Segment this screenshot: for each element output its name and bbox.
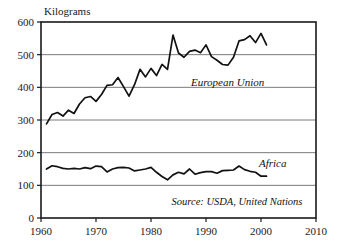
x-tick-label-2000: 2000 xyxy=(250,225,273,237)
x-axis-labels: 196019701980199020002010 xyxy=(30,225,328,237)
x-tick-label-1960: 1960 xyxy=(30,225,53,237)
y-tick-label-200: 200 xyxy=(18,147,35,159)
series-line-africa xyxy=(47,166,267,180)
x-tick-label-2010: 2010 xyxy=(305,225,328,237)
y-tick-label-400: 400 xyxy=(18,81,35,93)
x-tick-label-1980: 1980 xyxy=(140,225,163,237)
y-tick-label-600: 600 xyxy=(18,16,35,28)
chart-container: 0100200300400500600 19601970198019902000… xyxy=(0,0,343,252)
x-tick-label-1990: 1990 xyxy=(195,225,218,237)
y-axis-labels: 0100200300400500600 xyxy=(18,16,35,224)
y-tick-label-300: 300 xyxy=(18,114,35,126)
source-note: Source: USDA, United Nations xyxy=(172,196,303,207)
series-lines xyxy=(47,33,267,179)
y-tick-label-500: 500 xyxy=(18,49,35,61)
y-tick-label-100: 100 xyxy=(18,179,35,191)
y-axis-title: Kilograms xyxy=(44,5,90,17)
y-tick-label-0: 0 xyxy=(29,212,35,224)
series-label-africa: Africa xyxy=(258,157,287,169)
series-label-european-union: European Union xyxy=(190,76,265,88)
x-tick-label-1970: 1970 xyxy=(85,225,108,237)
line-chart: 0100200300400500600 19601970198019902000… xyxy=(0,0,343,252)
